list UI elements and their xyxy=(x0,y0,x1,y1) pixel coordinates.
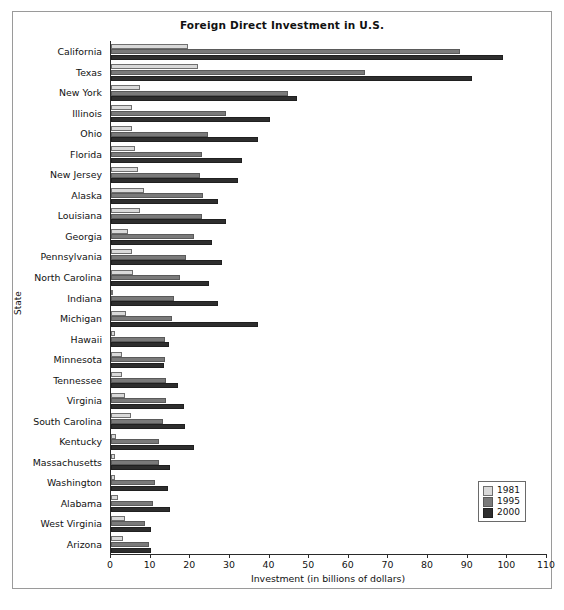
x-tick-mark xyxy=(546,554,547,558)
bar-group xyxy=(111,105,547,123)
bar-pennsylvania-2000 xyxy=(111,260,222,265)
y-axis-label-ohio: Ohio xyxy=(80,128,102,139)
x-axis-ticks: 0102030405060708090100110 xyxy=(110,554,546,574)
bar-indiana-1981 xyxy=(111,290,113,295)
legend-item-2000: 2000 xyxy=(483,507,520,518)
bar-west-virginia-1981 xyxy=(111,516,125,521)
bar-new-jersey-1981 xyxy=(111,167,138,172)
y-axis-label-michigan: Michigan xyxy=(60,313,102,324)
legend-item-1995: 1995 xyxy=(483,496,520,507)
bar-virginia-1981 xyxy=(111,393,125,398)
bar-group xyxy=(111,372,547,390)
bar-group xyxy=(111,331,547,349)
bar-group xyxy=(111,167,547,185)
bar-group xyxy=(111,146,547,164)
bar-group xyxy=(111,434,547,452)
bar-illinois-1995 xyxy=(111,111,226,116)
legend-swatch-1995 xyxy=(483,497,493,507)
x-tick-mark xyxy=(506,554,507,558)
bar-arizona-1995 xyxy=(111,542,149,547)
bar-north-carolina-2000 xyxy=(111,281,209,286)
y-axis-label-louisiana: Louisiana xyxy=(58,210,102,221)
y-axis-label-indiana: Indiana xyxy=(67,292,102,303)
bar-alaska-2000 xyxy=(111,199,218,204)
bar-hawaii-2000 xyxy=(111,342,169,347)
x-tick-mark xyxy=(189,554,190,558)
bar-ohio-1981 xyxy=(111,126,132,131)
x-axis-title: Investment (in billions of dollars) xyxy=(110,573,546,584)
bar-group xyxy=(111,188,547,206)
x-tick-label-110: 110 xyxy=(537,559,555,570)
bar-washington-1995 xyxy=(111,480,155,485)
bar-north-carolina-1981 xyxy=(111,270,133,275)
legend-label-2000: 2000 xyxy=(497,507,520,518)
x-tick-mark xyxy=(387,554,388,558)
bar-minnesota-2000 xyxy=(111,363,164,368)
bar-alabama-2000 xyxy=(111,507,170,512)
chart-legend: 198119952000 xyxy=(478,481,526,522)
x-tick-mark xyxy=(269,554,270,558)
bar-group xyxy=(111,208,547,226)
bar-new-york-1995 xyxy=(111,91,288,96)
bar-texas-2000 xyxy=(111,76,472,81)
y-axis-label-georgia: Georgia xyxy=(65,230,102,241)
x-tick-label-30: 30 xyxy=(223,559,235,570)
legend-label-1995: 1995 xyxy=(497,496,520,507)
x-tick-mark xyxy=(308,554,309,558)
bar-indiana-2000 xyxy=(111,301,218,306)
bar-south-carolina-2000 xyxy=(111,424,185,429)
y-axis-label-new-jersey: New Jersey xyxy=(50,169,102,180)
y-axis-label-pennsylvania: Pennsylvania xyxy=(40,251,102,262)
bar-arizona-2000 xyxy=(111,548,151,553)
bar-tennessee-2000 xyxy=(111,383,178,388)
bar-california-2000 xyxy=(111,55,503,60)
y-axis-label-massachusetts: Massachusetts xyxy=(33,456,102,467)
bar-group xyxy=(111,536,547,554)
bar-texas-1995 xyxy=(111,70,365,75)
bar-ohio-2000 xyxy=(111,137,258,142)
bar-michigan-1981 xyxy=(111,311,126,316)
bar-louisiana-2000 xyxy=(111,219,226,224)
bar-massachusetts-1995 xyxy=(111,460,159,465)
bar-florida-1981 xyxy=(111,146,135,151)
bar-michigan-2000 xyxy=(111,322,258,327)
y-axis-label-kentucky: Kentucky xyxy=(59,436,102,447)
y-axis-label-virginia: Virginia xyxy=(67,395,102,406)
bar-georgia-1995 xyxy=(111,234,194,239)
bar-alabama-1981 xyxy=(111,495,118,500)
x-tick-label-40: 40 xyxy=(263,559,275,570)
x-tick-label-70: 70 xyxy=(381,559,393,570)
bar-group xyxy=(111,44,547,62)
x-tick-mark xyxy=(467,554,468,558)
x-tick-label-10: 10 xyxy=(144,559,156,570)
bar-group xyxy=(111,249,547,267)
y-axis-label-texas: Texas xyxy=(76,66,102,77)
bar-virginia-2000 xyxy=(111,404,184,409)
x-tick-label-80: 80 xyxy=(421,559,433,570)
x-tick-mark xyxy=(348,554,349,558)
bar-new-york-1981 xyxy=(111,85,140,90)
y-axis-label-alabama: Alabama xyxy=(61,497,102,508)
y-axis-label-north-carolina: North Carolina xyxy=(34,271,102,282)
bar-virginia-1995 xyxy=(111,398,166,403)
x-tick-label-20: 20 xyxy=(183,559,195,570)
bar-kentucky-1995 xyxy=(111,439,159,444)
bar-groups xyxy=(111,41,547,554)
bar-illinois-2000 xyxy=(111,117,270,122)
y-axis-label-hawaii: Hawaii xyxy=(71,333,102,344)
x-tick-label-100: 100 xyxy=(497,559,515,570)
x-tick-mark xyxy=(150,554,151,558)
bar-ohio-1995 xyxy=(111,132,208,137)
bar-group xyxy=(111,85,547,103)
bar-michigan-1995 xyxy=(111,316,172,321)
y-axis-label-south-carolina: South Carolina xyxy=(33,415,102,426)
bar-group xyxy=(111,311,547,329)
x-tick-label-50: 50 xyxy=(302,559,314,570)
y-axis-label-alaska: Alaska xyxy=(71,189,102,200)
chart-title: Foreign Direct Investment in U.S. xyxy=(0,19,564,31)
bar-california-1981 xyxy=(111,44,188,49)
y-axis-label-minnesota: Minnesota xyxy=(54,354,102,365)
y-axis-label-tennessee: Tennessee xyxy=(53,374,102,385)
bar-group xyxy=(111,126,547,144)
bar-hawaii-1981 xyxy=(111,331,115,336)
